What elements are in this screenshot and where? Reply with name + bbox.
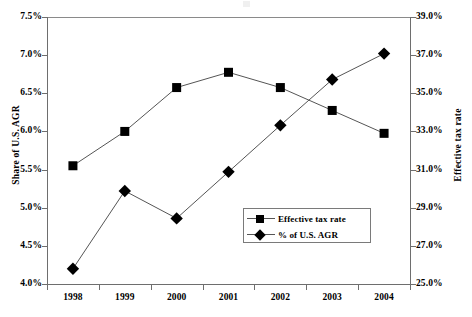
y-axis-left-tick-label: 5.5% xyxy=(0,164,42,174)
y-axis-right-tick-label: 35.0% xyxy=(416,87,462,97)
x-axis-tick-mark xyxy=(203,285,204,290)
x-axis-tick-label: 1998 xyxy=(48,292,98,302)
legend-item-share-of-agr: % of U.S. AGR xyxy=(244,227,372,243)
x-axis-tick-label: 2002 xyxy=(255,292,305,302)
legend-box: Effective tax rate % of U.S. AGR xyxy=(243,208,371,243)
x-axis-tick-label: 2000 xyxy=(152,292,202,302)
y-axis-left-tick-mark xyxy=(42,131,47,132)
data-point-diamond xyxy=(67,263,79,275)
data-point-square xyxy=(224,68,233,77)
y-axis-left-tick-label: 6.0% xyxy=(0,125,42,135)
y-axis-left-tick-mark xyxy=(42,55,47,56)
y-axis-right-tick-label: 29.0% xyxy=(416,202,462,212)
chart-container: Share of U.S. AGR Effective tax rate 4.0… xyxy=(0,0,472,317)
scan-artifact xyxy=(243,1,250,7)
y-axis-right-tick-label: 37.0% xyxy=(416,49,462,59)
y-axis-left-tick-label: 4.5% xyxy=(0,240,42,250)
y-axis-left-tick-mark xyxy=(42,93,47,94)
data-point-diamond xyxy=(274,119,286,131)
y-axis-left-tick-mark xyxy=(42,170,47,171)
x-axis-tick-label: 2004 xyxy=(359,292,409,302)
x-axis-line xyxy=(47,284,411,285)
data-point-diamond xyxy=(119,185,131,197)
data-point-square xyxy=(120,127,129,136)
y-axis-left-tick-label: 4.0% xyxy=(0,278,42,288)
x-axis-tick-mark xyxy=(47,285,48,290)
data-point-diamond xyxy=(378,47,390,59)
x-axis-tick-mark xyxy=(410,285,411,290)
x-axis-tick-label: 2003 xyxy=(307,292,357,302)
x-axis-tick-mark xyxy=(358,285,359,290)
y-axis-right-tick-label: 25.0% xyxy=(416,278,462,288)
x-axis-tick-label: 1999 xyxy=(100,292,150,302)
y-axis-left-tick-mark xyxy=(42,246,47,247)
legend-label-0: Effective tax rate xyxy=(278,214,346,224)
y-axis-left-tick-label: 7.5% xyxy=(0,11,42,21)
y-axis-left-tick-label: 5.0% xyxy=(0,202,42,212)
y-axis-left-tick-label: 6.5% xyxy=(0,87,42,97)
y-axis-right-line xyxy=(410,17,411,285)
y-axis-left-tick-label: 7.0% xyxy=(0,49,42,59)
plot-frame-top xyxy=(47,17,411,18)
data-series-layer xyxy=(0,0,472,317)
y-axis-left-title: Share of U.S. AGR xyxy=(11,85,21,205)
y-axis-right-tick-label: 33.0% xyxy=(416,125,462,135)
data-point-diamond xyxy=(170,212,182,224)
data-point-square xyxy=(68,161,77,170)
y-axis-right-tick-label: 31.0% xyxy=(416,164,462,174)
series-line-0 xyxy=(73,72,384,165)
y-axis-right-tick-label: 27.0% xyxy=(416,240,462,250)
x-axis-tick-mark xyxy=(99,285,100,290)
x-axis-tick-mark xyxy=(254,285,255,290)
data-point-square xyxy=(276,83,285,92)
y-axis-left-tick-mark xyxy=(42,17,47,18)
data-point-square xyxy=(380,129,389,138)
y-axis-left-line xyxy=(47,17,48,285)
y-axis-left-tick-mark xyxy=(42,208,47,209)
data-point-diamond xyxy=(222,166,234,178)
data-point-square xyxy=(328,106,337,115)
data-point-square xyxy=(172,83,181,92)
data-point-diamond xyxy=(326,73,338,85)
x-axis-tick-label: 2001 xyxy=(204,292,254,302)
legend-item-effective-tax-rate: Effective tax rate xyxy=(244,211,372,227)
legend-diamond-marker-icon xyxy=(244,228,278,242)
legend-square-marker-icon xyxy=(244,212,278,226)
x-axis-tick-mark xyxy=(306,285,307,290)
y-axis-right-title: Effective tax rate xyxy=(453,85,463,205)
x-axis-tick-mark xyxy=(151,285,152,290)
y-axis-right-tick-label: 39.0% xyxy=(416,11,462,21)
legend-label-1: % of U.S. AGR xyxy=(278,230,338,240)
